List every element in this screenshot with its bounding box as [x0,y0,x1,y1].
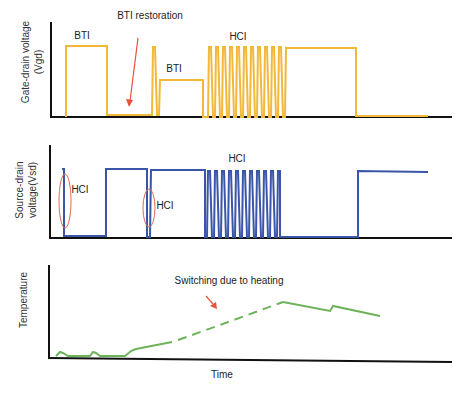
panel-vsd: Source-drain voltage(Vsd) HCI HCI HCI [14,145,452,238]
panel-temperature: Temperature Switching due to heating Tim… [18,265,452,380]
vgd-waveform [66,46,428,117]
hci-label-2: HCI [156,200,173,211]
hci-label-vgd: HCI [229,31,246,42]
vsd-y-label-2: voltage(Vsd) [27,162,38,218]
red-arrow-icon-2 [206,296,217,309]
temperature-curve-end [283,302,380,316]
waveform-diagram: Gate-drain voltage (Vgd) BTI restoration… [0,0,462,393]
bti-label-2: BTI [166,63,182,74]
bti-label-1: BTI [74,30,90,41]
bti-restoration-label: BTI restoration [117,10,183,21]
temperature-curve-dashed [178,302,283,340]
switching-label: Switching due to heating [175,275,284,286]
panel-vgd: Gate-drain voltage (Vgd) BTI restoration… [20,10,452,117]
vgd-y-label-1: Gate-drain voltage [20,20,31,103]
hci-ellipse-2 [143,189,155,227]
temp-y-label: Temperature [18,271,29,328]
vgd-y-label-2: (Vgd) [33,50,44,74]
temperature-curve-start [56,342,172,356]
temp-x-axis [48,358,452,362]
vsd-y-label-1: Source-drain [14,161,25,218]
red-arrow-icon [126,38,138,107]
hci-label-3: HCI [228,153,245,164]
vsd-waveform [62,169,428,237]
x-axis-label-time: Time [211,369,233,380]
hci-label-1: HCI [71,184,88,195]
